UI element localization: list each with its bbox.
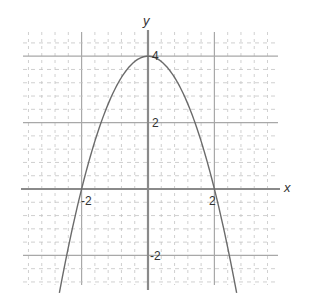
tick-label-y-4: 4: [152, 50, 159, 62]
tick-label-y-neg2: -2: [150, 250, 161, 262]
tick-label-x-2: 2: [209, 195, 216, 207]
x-axis-label: x: [284, 181, 291, 194]
tick-label-x-neg2: -2: [81, 195, 92, 207]
tick-label-y-2: 2: [152, 117, 159, 129]
y-axis-label: y: [143, 14, 150, 27]
